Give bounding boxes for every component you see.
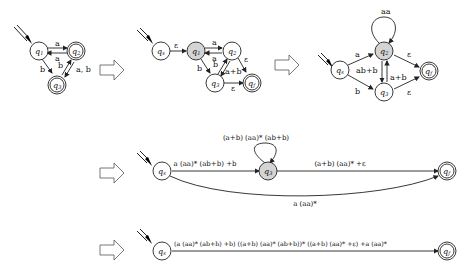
edge-q3-loop bbox=[254, 143, 276, 163]
edge-q1-q3 bbox=[201, 59, 210, 73]
state-qf-accepting: qf bbox=[243, 74, 261, 92]
edge-qs-qf bbox=[170, 176, 438, 196]
edge-label: b bbox=[197, 64, 202, 73]
edge-label: a (aa)* (ab+b) +b bbox=[174, 160, 237, 168]
edge-label: (a (aa)* (ab+b) +b) ((a+b) (aa)* (ab+b))… bbox=[174, 240, 388, 247]
edge-label: a+b bbox=[390, 73, 407, 82]
state-qs: qs bbox=[152, 42, 170, 60]
edge-label: ε bbox=[174, 41, 178, 50]
state-elimination-diagram: a a b b a, b q1 q2 q3 ε bbox=[0, 0, 461, 277]
edge-label: a, b bbox=[76, 65, 91, 74]
start-arrow-icon bbox=[318, 53, 333, 68]
edge-label: a bbox=[212, 38, 217, 47]
edge-label: a bbox=[55, 39, 60, 48]
diagram-canvas: a a b b a, b q1 q2 q3 ε bbox=[0, 0, 461, 277]
edge-label: a+b bbox=[225, 67, 242, 76]
state-q3-accepting: q3 bbox=[48, 76, 66, 94]
state-q3: q3 bbox=[375, 83, 393, 101]
edge-label: ε bbox=[407, 88, 411, 97]
state-qf-accepting: qf bbox=[438, 162, 456, 180]
edge-q2-loop bbox=[372, 17, 396, 43]
state-qf-accepting: qf bbox=[420, 62, 438, 80]
transform-arrow-icon bbox=[275, 55, 299, 75]
stage-5-automaton: (a (aa)* (ab+b) +b) ((a+b) (aa)* (ab+b))… bbox=[137, 229, 456, 260]
edge-label: b bbox=[40, 65, 45, 74]
state-qs: qs bbox=[153, 162, 171, 180]
transform-arrow-icon bbox=[100, 60, 124, 80]
edge-q2-q3 bbox=[65, 62, 74, 77]
edge-label: ε bbox=[407, 50, 411, 59]
stage-2-automaton: ε a a b b a+b ε ε qs q1 q2 q3 bbox=[137, 28, 261, 93]
state-qs: qs bbox=[331, 61, 349, 79]
state-q1-highlighted: q1 bbox=[187, 42, 205, 60]
start-arrow-icon bbox=[137, 229, 152, 244]
edge-label: a (aa)* bbox=[293, 200, 317, 208]
edge-label: aa bbox=[381, 7, 391, 16]
start-arrow-icon bbox=[137, 151, 152, 166]
stage-4-automaton: (a+b) (aa)* (ab+b) a (aa)* (ab+b) +b (a+… bbox=[137, 134, 456, 208]
state-q3: q3 bbox=[206, 74, 224, 92]
edge-label: a bbox=[355, 50, 360, 59]
transform-arrow-icon bbox=[100, 240, 124, 260]
state-q3-highlighted: q3 bbox=[259, 162, 277, 180]
start-arrow-icon bbox=[137, 28, 153, 44]
state-q1: q1 bbox=[30, 42, 48, 60]
edge-qs-q2 bbox=[348, 54, 373, 65]
stage-1-automaton: a a b b a, b q1 q2 q3 bbox=[14, 25, 91, 94]
edge-qs-q3 bbox=[348, 75, 373, 89]
state-qf-accepting: qf bbox=[438, 242, 456, 260]
edge-label: b bbox=[213, 60, 218, 69]
edge-label: (a+b) (aa)* +ε bbox=[314, 160, 366, 168]
start-arrow-icon bbox=[14, 25, 32, 44]
state-q2-highlighted: q2 bbox=[375, 42, 393, 60]
state-qs: qs bbox=[153, 242, 171, 260]
stage-3-automaton: aa a b ab+b a+b ε ε qs q2 q3 qf bbox=[318, 7, 438, 101]
edge-q3-q2 bbox=[62, 60, 71, 75]
edge-label: (a+b) (aa)* (ab+b) bbox=[223, 134, 289, 142]
edge-label: ab+b bbox=[356, 66, 378, 75]
state-q2-accepting: q2 bbox=[67, 42, 85, 60]
state-q2: q2 bbox=[223, 42, 241, 60]
edge-label: ε bbox=[244, 55, 248, 64]
edge-label: b bbox=[58, 61, 63, 70]
edge-label: b bbox=[355, 87, 360, 96]
edge-label: ε bbox=[231, 84, 235, 93]
transform-arrow-icon bbox=[100, 163, 124, 183]
